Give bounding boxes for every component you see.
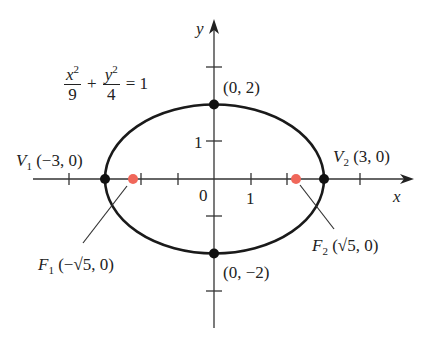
ellipse-diagram	[0, 0, 427, 344]
x-numerator: x	[66, 65, 74, 84]
vertex-v1	[100, 174, 110, 184]
y-exponent: 2	[112, 63, 118, 75]
x-exponent: 2	[74, 63, 80, 75]
focus-f1	[128, 174, 138, 184]
f1-label: F1 (−√5, 0)	[38, 256, 114, 276]
v2-subscript: 2	[343, 156, 349, 168]
ellipse-equation: x2 9 + y2 4 = 1	[64, 64, 148, 103]
x-denominator: 9	[64, 85, 81, 103]
y-axis-label: y	[196, 20, 204, 37]
v1-subscript: 1	[26, 160, 32, 172]
f2-name: F	[312, 236, 322, 255]
y-denominator: 4	[103, 85, 120, 103]
equals-one: = 1	[126, 75, 148, 92]
v2-name: V	[333, 147, 343, 166]
top-vertex-label: (0, 2)	[223, 79, 260, 96]
v2-coord: (3, 0)	[353, 147, 390, 166]
f2-subscript: 2	[322, 245, 328, 257]
f1-subscript: 1	[48, 264, 54, 276]
f2-coord: (√5, 0)	[332, 236, 378, 255]
f1-name: F	[38, 255, 48, 274]
v1-name: V	[16, 151, 26, 170]
f1-coord: (−√5, 0)	[58, 255, 114, 274]
f1-leader-line	[83, 186, 127, 243]
x-axis-label: x	[393, 188, 401, 205]
y-fraction: y2 4	[103, 64, 120, 103]
vertex-v2	[319, 174, 329, 184]
focus-f2	[291, 174, 301, 184]
plus-sign: +	[87, 75, 97, 92]
y-tick-label-1: 1	[194, 134, 203, 151]
covertex-top	[209, 100, 219, 110]
x-tick-label-1: 1	[246, 190, 255, 207]
f2-label: F2 (√5, 0)	[312, 237, 378, 257]
x-fraction: x2 9	[64, 64, 81, 103]
v1-coord: (−3, 0)	[36, 151, 82, 170]
v2-label: V2 (3, 0)	[333, 148, 390, 168]
origin-label: 0	[199, 187, 208, 204]
v1-label: V1 (−3, 0)	[16, 152, 83, 172]
covertex-bottom	[209, 249, 219, 259]
bottom-vertex-label: (0, −2)	[223, 264, 269, 281]
